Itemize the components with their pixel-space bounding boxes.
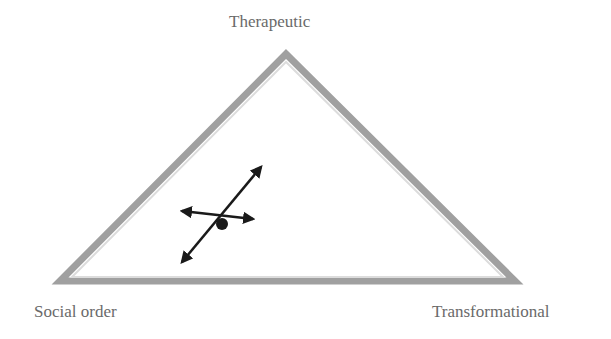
position-dot-icon (216, 218, 228, 230)
direction-arrows (182, 167, 261, 262)
triangle-shape (60, 54, 515, 281)
triangle-diagram (0, 0, 611, 339)
